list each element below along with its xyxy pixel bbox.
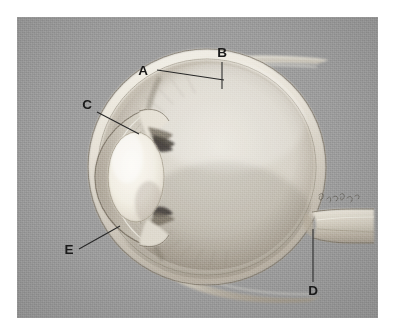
label-c-text: C: [82, 97, 92, 112]
label-layer: A B C D E: [17, 17, 378, 318]
label-d-group[interactable]: D: [308, 229, 318, 298]
label-a-group[interactable]: A: [138, 63, 224, 80]
label-a-leader: [157, 70, 224, 80]
label-b-text: B: [217, 45, 227, 60]
label-c-leader: [97, 112, 139, 134]
label-c-group[interactable]: C: [82, 97, 139, 134]
label-a-text: A: [138, 63, 148, 78]
label-d-text: D: [308, 283, 318, 298]
figure-root: A B C D E: [0, 0, 397, 334]
label-b-group[interactable]: B: [217, 45, 227, 89]
label-e-group[interactable]: E: [64, 226, 120, 257]
illustration-panel: A B C D E: [17, 17, 378, 318]
label-e-text: E: [64, 242, 73, 257]
label-e-leader: [79, 226, 120, 249]
